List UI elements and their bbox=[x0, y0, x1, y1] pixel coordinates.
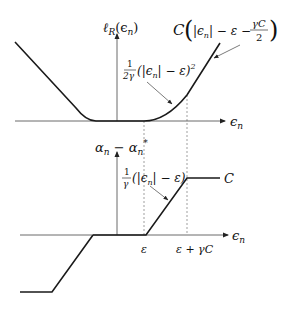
bottom-plot: αn − αn* ϵn 1 γ (|ϵn| − ε) C ε ε + γC bbox=[20, 138, 245, 292]
svg-text:1: 1 bbox=[124, 167, 130, 177]
diagram-canvas: ℓR(ϵn) ϵn C ( |ϵn| − ε − γC 2 ) 1 2γ (|ϵ… bbox=[0, 0, 285, 315]
ramp-annotation: 1 γ (|ϵn| − ε) bbox=[122, 167, 186, 200]
linear-region-annotation: C ( |ϵn| − ε − γC 2 ) bbox=[173, 16, 278, 58]
svg-text:): ) bbox=[269, 16, 278, 44]
svg-text:2: 2 bbox=[256, 32, 262, 43]
svg-text:γC: γC bbox=[252, 18, 266, 29]
bottom-y-axis-label: αn − αn* bbox=[95, 138, 148, 157]
svg-text:(|ϵn| − ε)2: (|ϵn| − ε)2 bbox=[137, 62, 196, 80]
ramp-annotation-pointer bbox=[150, 186, 168, 200]
svg-text:γ: γ bbox=[123, 179, 129, 189]
loss-and-dual-diagram: ℓR(ϵn) ϵn C ( |ϵn| − ε − γC 2 ) 1 2γ (|ϵ… bbox=[0, 0, 285, 315]
svg-text:2γ: 2γ bbox=[122, 71, 135, 81]
tick-label-epsilon: ε bbox=[141, 243, 147, 256]
svg-text:|ϵn| − ε −: |ϵn| − ε − bbox=[193, 24, 251, 40]
loss-curve bbox=[15, 42, 220, 121]
tick-label-epsilon-plus-gamma-c: ε + γC bbox=[176, 243, 214, 256]
plateau-label-c: C bbox=[224, 171, 234, 186]
svg-text:(: ( bbox=[184, 16, 193, 44]
bottom-x-axis-label: ϵn bbox=[232, 228, 245, 245]
top-y-axis-label: ℓR(ϵn) bbox=[103, 20, 138, 37]
dual-curve-positive bbox=[93, 178, 220, 235]
quadratic-annotation-pointer bbox=[147, 82, 172, 104]
dual-curve-negative bbox=[20, 235, 93, 292]
top-plot: ℓR(ϵn) ϵn C ( |ϵn| − ε − γC 2 ) 1 2γ (|ϵ… bbox=[15, 16, 278, 235]
svg-text:(|ϵn| − ε): (|ϵn| − ε) bbox=[132, 171, 186, 187]
svg-text:1: 1 bbox=[127, 59, 133, 69]
top-x-axis-label: ϵn bbox=[230, 114, 243, 131]
